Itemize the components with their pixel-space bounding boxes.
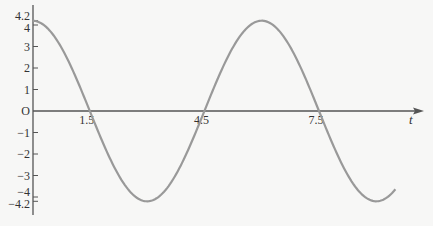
y-tick-label: −3 [17, 169, 30, 183]
y-tick-label: 2 [24, 61, 30, 75]
x-axis-title: t [409, 112, 413, 127]
y-tick-label: 4 [24, 21, 30, 35]
y-axis: 4.24321O−1−2−3−4−4.2 [8, 5, 38, 215]
y-tick-label: O [21, 104, 30, 118]
y-tick-label: 3 [24, 40, 30, 54]
chart: 4.24321O−1−2−3−4−4.2 1.54.57.5 t [0, 0, 433, 226]
y-tick-label: −2 [17, 147, 30, 161]
y-tick-label: −4.2 [8, 197, 30, 211]
y-tick-label: 1 [24, 83, 30, 97]
y-tick-label: −1 [17, 126, 30, 140]
